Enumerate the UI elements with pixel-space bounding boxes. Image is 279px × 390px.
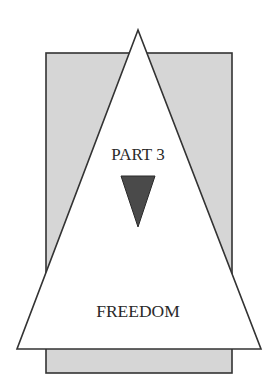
- part-label: PART 3: [111, 145, 164, 164]
- diagram-canvas: PART 3 FREEDOM: [0, 0, 279, 390]
- diagram-svg: PART 3 FREEDOM: [0, 0, 279, 390]
- freedom-label: FREEDOM: [96, 301, 180, 321]
